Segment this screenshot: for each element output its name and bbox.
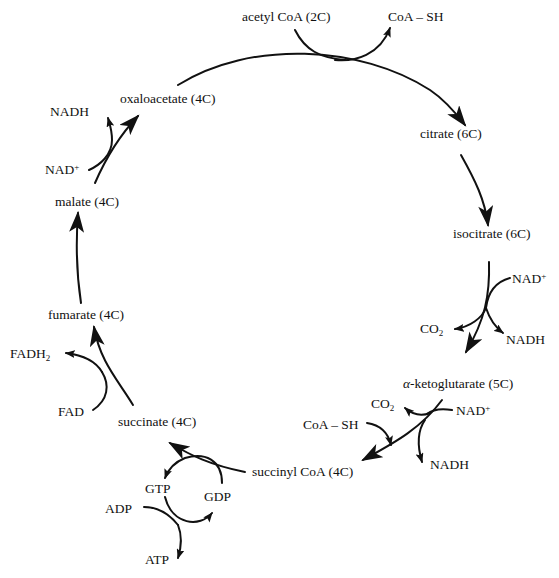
label-nad-akg: NAD+ — [456, 404, 490, 418]
label-succinate: succinate (4C) — [118, 415, 196, 429]
arrow-fad-in — [93, 372, 107, 410]
label-nad-malate: NAD+ — [45, 163, 79, 177]
label-nad-isocitrate: NAD+ — [512, 272, 546, 286]
arrow-nad-malate — [89, 118, 112, 170]
arrow-citrate-to-isocitrate — [461, 155, 488, 225]
label-alpha-ketoglutarate: α-ketoglutarate (5C) — [403, 377, 513, 391]
label-co2-isocitrate: CO2 — [420, 322, 443, 336]
label-isocitrate: isocitrate (6C) — [453, 227, 531, 241]
label-co2-akg: CO2 — [371, 397, 394, 411]
label-atp: ATP — [145, 553, 169, 567]
label-fadh2: FADH2 — [10, 347, 50, 361]
arrow-adp-in — [144, 507, 178, 525]
label-gdp: GDP — [204, 490, 231, 504]
arrow-coa-sh-out — [335, 28, 390, 60]
label-coa-sh-akg: CoA – SH — [303, 418, 359, 432]
arrow-gdp-to-gtp — [165, 456, 222, 483]
label-malate: malate (4C) — [55, 195, 119, 209]
arrow-fadh2-out — [66, 353, 102, 372]
label-acetyl-coa: acetyl CoA (2C) — [242, 10, 330, 24]
label-fumarate: fumarate (4C) — [48, 308, 124, 322]
cycle-arrows — [0, 0, 559, 578]
label-nadh-isocitrate: NADH — [506, 333, 545, 347]
label-oxaloacetate: oxaloacetate (4C) — [120, 92, 216, 106]
arrow-malate-to-oxaloacetate — [95, 116, 138, 183]
arrow-co2-akg — [405, 408, 430, 415]
label-adp: ADP — [105, 502, 132, 516]
label-coa-sh-top: CoA – SH — [388, 10, 444, 24]
arrow-coa-sh-akg — [367, 423, 391, 445]
label-nadh-malate: NADH — [50, 105, 89, 119]
label-succinyl-coa: succinyl CoA (4C) — [252, 465, 353, 479]
label-gtp: GTP — [145, 482, 171, 496]
arrow-nadh-isocitrate — [486, 308, 503, 333]
arrow-succinate-to-fumarate — [94, 327, 133, 405]
arrow-oxaloacetate-to-citrate — [178, 54, 465, 125]
label-nadh-akg: NADH — [430, 458, 469, 472]
arrow-fumarate-to-malate — [77, 213, 81, 303]
label-citrate: citrate (6C) — [420, 127, 482, 141]
arrow-nadh-akg — [419, 420, 425, 462]
arrow-atp-out — [178, 525, 181, 558]
arrow-acetyl-coa-in — [295, 30, 345, 60]
label-fad: FAD — [58, 405, 84, 419]
